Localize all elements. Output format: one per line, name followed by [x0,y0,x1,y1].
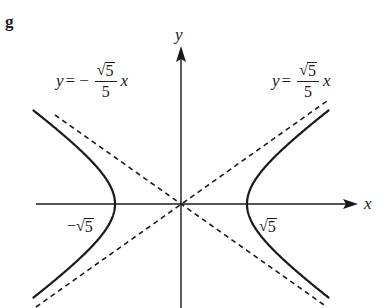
eq-lhs: y [56,71,64,91]
radicand: 5 [84,218,94,235]
eq-fraction: √5 5 [95,62,117,100]
eq-equals: = [66,71,76,91]
eq-numerator: √5 [297,62,319,79]
minus-sign: − [67,217,76,234]
eq-lhs: y [272,71,280,91]
asymptote-negative-line [55,115,327,307]
y-axis-label: y [175,26,183,43]
radicand: 5 [267,218,277,235]
sqrt-five: √5 [76,218,94,235]
vertex-left-label: −√5 [67,218,94,235]
sqrt-five: √5 [259,218,277,235]
eq-fraction: √5 5 [297,62,319,100]
vertex-right-label: √5 [259,218,277,235]
fraction-bar [297,81,319,82]
eq-var: x [323,71,331,91]
asymptote-negative-equation: y = − √5 5 x [56,62,128,100]
eq-denominator: 5 [100,84,112,100]
fraction-bar [95,81,117,82]
asymptote-positive-equation: y = √5 5 x [272,62,330,100]
panel-label: g [5,13,14,30]
eq-denominator: 5 [302,84,314,100]
eq-equals: = [282,71,292,91]
eq-var: x [121,71,129,91]
eq-sign: − [79,71,89,91]
x-axis-label: x [364,195,372,212]
eq-numerator: √5 [95,62,117,79]
hyperbola-diagram [0,0,386,308]
